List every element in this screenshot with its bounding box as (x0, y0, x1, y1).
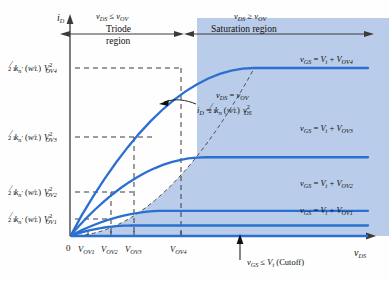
saturation-region-shading-right (197, 18, 389, 236)
triode-span-arrow-left (60, 31, 70, 37)
figure-container: iD vDS 0 VOV1 VOV2 VOV3 VOV4 1⁄2 kn′ (W⁄… (0, 0, 389, 282)
triode-region-name-line1: Triode (106, 24, 131, 34)
saturation-span-arrow-left (184, 31, 194, 37)
xtick-label-ov3: VOV3 (125, 244, 142, 255)
y-axis-arrowhead (67, 14, 74, 24)
ytick-label-ov4: 1⁄2 kn′ (W⁄L) V2OV4 (8, 60, 57, 74)
xtick-label-ov2: VOV2 (101, 244, 118, 255)
xtick-label-ov1: VOV1 (78, 244, 95, 255)
ytick-label-ov1: 1⁄2 kn′ (W⁄L) V2OV1 (8, 211, 57, 225)
svg-text:1⁄2 kn′ (W⁄L) V2OV1: 1⁄2 kn′ (W⁄L) V2OV1 (8, 211, 57, 225)
ytick-label-ov2: 1⁄2 kn′ (W⁄L) V2OV2 (8, 184, 57, 198)
saturation-region-name: Saturation region (211, 24, 277, 34)
triode-region-name-line2: region (106, 36, 131, 46)
ytick-label-ov3: 1⁄2 kn′ (W⁄L) V2OV3 (8, 129, 57, 143)
triode-condition: vDS ≤ vOV (96, 11, 130, 22)
origin-label: 0 (66, 243, 71, 253)
xtick-label-ov4: VOV4 (170, 244, 187, 255)
mosfet-characteristics-chart: iD vDS 0 VOV1 VOV2 VOV3 VOV4 1⁄2 kn′ (W⁄… (0, 0, 389, 282)
y-axis-label: iD (57, 12, 65, 24)
x-axis-label: vDS (354, 247, 366, 259)
triode-span-arrow-right (174, 31, 184, 37)
svg-text:1⁄2 kn′ (W⁄L) V2OV3: 1⁄2 kn′ (W⁄L) V2OV3 (8, 129, 57, 143)
saturation-condition: vDS ≥ vOV (234, 11, 268, 22)
boundary-annotation-arrowhead (159, 100, 169, 106)
boundary-equation-text: iD = 1⁄2 kn (W⁄L) v2DS (197, 102, 252, 116)
cutoff-label: vGS ≤ Vt (Cutoff) (247, 257, 304, 268)
svg-text:1⁄2 kn′ (W⁄L) V2OV4: 1⁄2 kn′ (W⁄L) V2OV4 (8, 60, 57, 74)
svg-text:1⁄2 kn′ (W⁄L) V2OV2: 1⁄2 kn′ (W⁄L) V2OV2 (8, 184, 57, 198)
